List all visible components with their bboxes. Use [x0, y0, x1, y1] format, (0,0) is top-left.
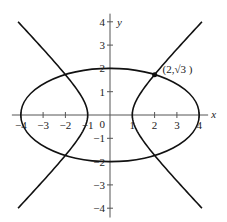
y-tick-label: 3 — [100, 39, 106, 51]
y-tick-label: −4 — [93, 202, 105, 214]
x-tick-label: −4 — [15, 119, 27, 131]
y-tick-label: 2 — [100, 62, 106, 74]
intersection-point — [152, 72, 157, 77]
x-tick-label: 3 — [174, 119, 180, 131]
y-tick-label: −2 — [93, 156, 105, 168]
chart-figure: −4−3−2−11234−4−3−2−112340xy(2,√3 ) — [0, 0, 227, 222]
axes — [12, 14, 208, 218]
y-tick-label: 4 — [100, 16, 106, 28]
y-tick-label: −3 — [93, 179, 105, 191]
x-tick-label: 2 — [152, 119, 158, 131]
x-tick-label: −1 — [82, 119, 94, 131]
plot-canvas: −4−3−2−11234−4−3−2−112340xy(2,√3 ) — [0, 0, 227, 222]
x-tick-label: −3 — [37, 119, 49, 131]
point-label: (2,√3 ) — [163, 63, 193, 76]
origin-label: 0 — [100, 118, 106, 130]
y-tick-label: −1 — [93, 132, 105, 144]
x-tick-label: 1 — [130, 119, 136, 131]
x-tick-label: 4 — [196, 119, 202, 131]
y-tick-label: 1 — [100, 86, 106, 98]
y-axis-label: y — [116, 16, 122, 28]
x-axis-label: x — [210, 108, 216, 120]
x-tick-label: −2 — [60, 119, 72, 131]
